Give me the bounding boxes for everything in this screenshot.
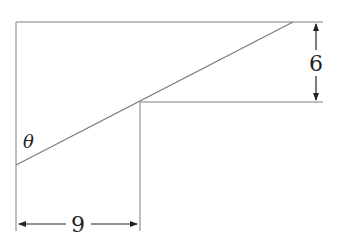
angle-theta-label: θ [23,131,34,152]
height-label: 6 [309,51,323,76]
width-label: 9 [71,212,85,237]
geometry-diagram: 6 9 θ [0,0,342,249]
diagonal-line [16,22,293,165]
